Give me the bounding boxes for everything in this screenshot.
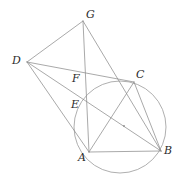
vertex-label-C: C xyxy=(136,69,144,80)
segment-G-B xyxy=(83,21,161,151)
segment-G-A xyxy=(83,21,89,152)
segment-C-B xyxy=(134,82,161,151)
vertex-label-B: B xyxy=(164,145,172,156)
geometry-figure: G D C F E A B xyxy=(0,0,182,179)
segment-A-C xyxy=(89,82,134,152)
segments-group xyxy=(27,21,161,152)
vertex-label-A: A xyxy=(78,152,86,163)
vertex-label-F: F xyxy=(72,73,80,84)
segment-D-G xyxy=(27,21,83,62)
vertex-label-E: E xyxy=(71,99,79,110)
segment-D-C xyxy=(27,62,134,82)
vertex-label-G: G xyxy=(86,9,95,20)
geometry-canvas xyxy=(0,0,182,179)
vertex-label-D: D xyxy=(12,55,21,66)
segment-A-B xyxy=(89,151,161,152)
